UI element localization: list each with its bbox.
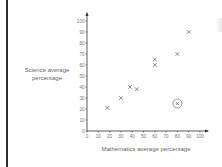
x-tick-label: 50 — [141, 134, 147, 139]
x-tick-label: 20 — [107, 134, 113, 139]
axes — [86, 12, 210, 133]
x-tick-label: 70 — [164, 134, 170, 139]
data-point — [176, 52, 180, 56]
data-point — [153, 58, 157, 62]
y-tick-label: 0 — [82, 129, 85, 134]
y-tick-label: 10 — [79, 118, 85, 123]
y-tick-label: 90 — [79, 30, 85, 35]
x-axis-arrow-icon — [205, 130, 209, 133]
y-axis-ticks: 0102030405060708090100 — [77, 19, 87, 134]
y-axis-arrow-icon — [86, 12, 89, 16]
y-axis-label-line2: percentage — [32, 75, 63, 81]
y-tick-label: 70 — [79, 52, 85, 57]
y-tick-label: 40 — [79, 85, 85, 90]
y-axis-label-line1: Science average — [25, 67, 70, 73]
y-tick-label: 100 — [77, 19, 85, 24]
x-tick-label: 60 — [152, 134, 158, 139]
data-point — [119, 96, 123, 100]
scatter-chart: 0102030405060708090100 01020304050607080… — [0, 0, 222, 167]
data-points — [106, 30, 191, 110]
x-tick-label: 0 — [86, 134, 89, 139]
x-tick-label: 100 — [196, 134, 204, 139]
x-axis-label: Mathematics average percentage — [101, 146, 191, 152]
y-tick-label: 30 — [79, 96, 85, 101]
y-tick-label: 20 — [79, 107, 85, 112]
x-tick-label: 30 — [118, 134, 124, 139]
data-point — [153, 63, 157, 67]
data-point — [187, 30, 191, 34]
data-point — [135, 87, 139, 91]
x-tick-label: 10 — [96, 134, 102, 139]
y-tick-label: 50 — [79, 74, 85, 79]
data-point — [128, 85, 132, 89]
x-axis-ticks: 0102030405060708090100 — [86, 131, 205, 139]
x-tick-label: 80 — [175, 134, 181, 139]
x-tick-label: 40 — [130, 134, 136, 139]
x-tick-label: 90 — [186, 134, 192, 139]
y-tick-label: 80 — [79, 41, 85, 46]
data-point — [106, 106, 110, 110]
y-tick-label: 60 — [79, 63, 85, 68]
outlier-point — [176, 102, 180, 106]
